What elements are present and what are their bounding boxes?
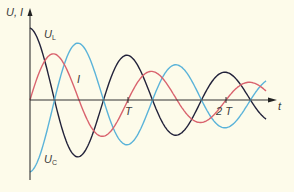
y-axis-label: U, I: [6, 6, 23, 18]
x-axis-label: t: [278, 100, 282, 112]
label-UL: UL: [44, 28, 56, 41]
label-UC: UC: [44, 153, 57, 166]
x-axis-arrow-icon: [268, 98, 277, 103]
label-I: I: [77, 73, 80, 85]
oscillation-chart: T 2 T t U, I UL UC I: [0, 0, 294, 192]
y-axis-arrow-icon: [28, 8, 33, 16]
series-i: [30, 54, 266, 136]
series-u-l: [30, 28, 266, 157]
tick-label-T: T: [125, 105, 133, 117]
tick-label-2T: 2 T: [215, 105, 233, 117]
